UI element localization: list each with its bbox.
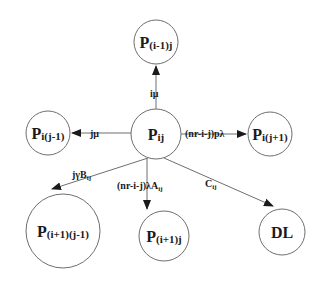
node-down: P(i+1)j	[139, 211, 189, 261]
edge-label-to-left: jμ	[89, 128, 99, 139]
edge-label-to-right: (nr-i-j)pλ	[185, 128, 225, 140]
node-lowleft: P(i+1)(j-1)	[26, 194, 100, 268]
edge-label-to-up: iμ	[150, 88, 159, 99]
state-diagram: iμ jμ (nr-i-j)pλ jγBij (nr-i-j)λAij Cij …	[0, 0, 314, 283]
edge-label-to-down: (nr-i-j)λAij	[117, 180, 162, 193]
edge-to-dl	[164, 158, 273, 206]
node-center: Pij	[131, 109, 181, 159]
node-up: P(i-1)j	[134, 20, 178, 64]
node-dl: DL	[259, 209, 305, 255]
node-right: Pi(j+1)	[248, 112, 292, 156]
node-left: Pi(j-1)	[26, 111, 70, 155]
svg-text:DL: DL	[271, 224, 293, 241]
